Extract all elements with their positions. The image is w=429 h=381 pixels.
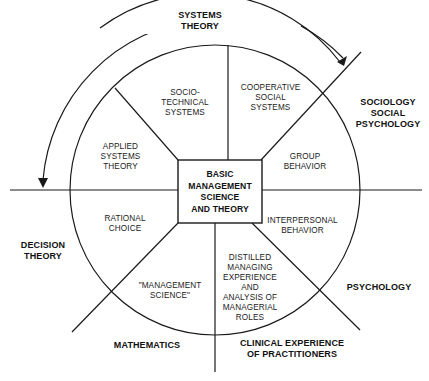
diagonal-lower-left [72,223,178,332]
segment-management-science: "MANAGEMENT SCIENCE" [125,281,215,301]
label-decision-theory: DECISION THEORY [8,240,78,262]
arrowhead-left [38,178,48,188]
label-psychology: PSYCHOLOGY [334,282,424,293]
segment-applied-systems-theory: APPLIED SYSTEMS THEORY [88,142,153,172]
segment-rational-choice: RATIONAL CHOICE [90,214,160,234]
label-systems-theory: SYSTEMS THEORY [150,10,250,32]
segment-socio-technical-systems: SOCIO- TECHNICAL SYSTEMS [140,88,230,118]
label-mathematics: MATHEMATICS [92,340,202,351]
segment-group-behavior: GROUP BEHAVIOR [270,152,340,172]
segment-interpersonal-behavior: INTERPERSONAL BEHAVIOR [255,216,350,236]
core-label: BASIC MANAGEMENT SCIENCE AND THEORY [178,169,262,215]
label-clinical-experience: CLINICAL EXPERIENCE OF PRACTITIONERS [222,338,362,360]
segment-distilled-managing-experience: DISTILLED MANAGING EXPERIENCE AND ANALYS… [210,253,290,323]
segment-cooperative-social-systems: COOPERATIVE SOCIAL SYSTEMS [233,83,308,113]
label-sociology-social-psychology: SOCIOLOGY SOCIAL PSYCHOLOGY [348,97,428,130]
